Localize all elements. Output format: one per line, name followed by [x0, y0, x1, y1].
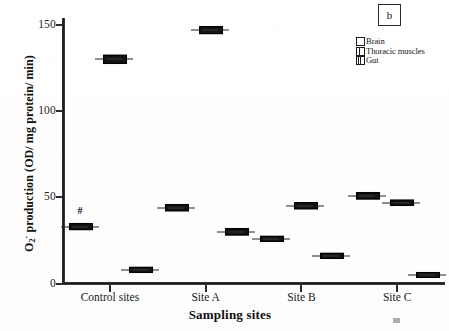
legend-label: Brain	[366, 37, 385, 46]
box-marker-gut-site-b	[312, 249, 350, 263]
median-line	[393, 202, 409, 203]
median-line	[419, 274, 435, 275]
box-marker-gut-control-sites	[121, 263, 159, 277]
y-tick-0	[56, 283, 63, 285]
significance-marker: #	[77, 205, 82, 216]
legend: b BrainThoracic musclesGut	[355, 4, 447, 66]
y-tick-label-wrap-0: 0	[0, 277, 56, 291]
x-axis-title: Sampling sites	[120, 307, 340, 323]
legend-swatch-icon-empty-square	[356, 37, 365, 46]
y-tick-50	[56, 196, 63, 198]
chart-figure: 050100150 Control sitesSite ASite BSite …	[0, 0, 449, 331]
y-axis-title: O2- production (OD/ mg protein/ min)	[22, 29, 37, 279]
legend-items: BrainThoracic musclesGut	[356, 37, 447, 66]
x-tick-label-site-b: Site B	[287, 291, 315, 303]
y-tick-100	[56, 110, 63, 112]
scan-artifact	[393, 318, 400, 323]
median-line	[168, 207, 184, 208]
median-line	[202, 30, 218, 31]
legend-swatch-icon-split-square	[356, 47, 365, 56]
median-line	[228, 231, 244, 232]
box-marker-thoracic-muscles-site-b	[286, 199, 324, 213]
box-marker-brain-control-sites	[61, 220, 99, 234]
y-axis-title-main: O	[22, 243, 36, 252]
y-axis-line	[62, 18, 65, 284]
box-marker-brain-site-b	[252, 232, 290, 246]
y-axis-title-rest: production (OD/ mg protein/ min)	[22, 55, 36, 236]
x-tick-label-control-sites: Control sites	[81, 291, 139, 303]
y-axis-title-superscript: -	[22, 236, 31, 239]
y-tick-150	[56, 24, 63, 26]
panel-label-b: b	[378, 4, 401, 26]
median-line	[106, 59, 122, 60]
box-marker-brain-site-a	[157, 201, 195, 215]
box-marker-thoracic-muscles-site-c	[382, 196, 420, 210]
x-axis-line	[62, 282, 445, 285]
median-line	[323, 255, 339, 256]
y-axis-title-subscript: 2	[28, 238, 37, 242]
median-line	[263, 238, 279, 239]
legend-item-gut: Gut	[356, 56, 447, 66]
box-marker-gut-site-a	[217, 225, 255, 239]
legend-label: Gut	[366, 56, 379, 65]
x-tick-label-site-c: Site C	[383, 291, 411, 303]
box-marker-thoracic-muscles-control-sites	[95, 52, 133, 66]
median-line	[359, 195, 375, 196]
median-line	[297, 205, 313, 206]
median-line	[72, 226, 88, 227]
box-marker-brain-site-c	[348, 189, 386, 203]
box-marker-gut-site-c	[408, 268, 446, 282]
legend-swatch-icon-hatched-square	[356, 56, 365, 65]
box-marker-thoracic-muscles-site-a	[191, 23, 229, 37]
median-line	[132, 269, 148, 270]
x-tick-label-site-a: Site A	[191, 291, 219, 303]
